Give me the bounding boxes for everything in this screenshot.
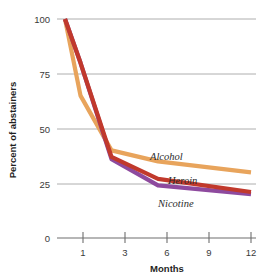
series-label-heroin: Heroin [167,175,197,186]
x-tick-label-1: 1 [80,247,85,258]
y-tick-label-50: 50 [39,124,50,135]
x-tick-label-3: 3 [122,247,127,258]
y-tick-label-0: 0 [45,233,50,244]
y-axis-tick-labels: 100 75 50 25 0 [34,14,50,244]
x-axis-tick-labels: 1 3 6 9 12 [80,247,256,258]
x-tick-label-12: 12 [246,247,257,258]
series-line-heroin [65,19,251,192]
x-axis-title: Months [150,263,184,274]
y-tick-label-75: 75 [39,69,50,80]
y-tick-label-100: 100 [34,14,50,25]
series-label-nicotine: Nicotine [157,198,194,209]
series-label-alcohol: Alcohol [149,151,183,162]
chart-figure: 100 75 50 25 0 Percent of abstainers 1 3… [0,0,263,278]
y-tick-label-25: 25 [39,179,50,190]
line-chart-canvas: 100 75 50 25 0 Percent of abstainers 1 3… [0,0,263,278]
x-tick-label-6: 6 [164,247,169,258]
y-axis-title: Percent of abstainers [7,82,18,179]
x-tick-label-9: 9 [206,247,211,258]
